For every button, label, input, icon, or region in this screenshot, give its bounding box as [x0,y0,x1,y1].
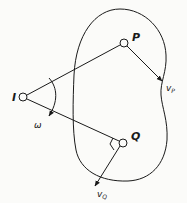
diagram-canvas: I P Q vP vQ ω [0,0,187,203]
label-q: Q [131,130,140,143]
label-omega: ω [34,120,42,130]
velocity-vq-arrow [95,146,120,186]
omega-arc-arrow [49,78,56,116]
point-p-circle [120,39,128,47]
rigid-body-outline [73,9,167,181]
label-vp: vP [166,83,175,94]
velocity-vp-arrow [127,46,162,81]
label-i: I [12,91,16,104]
label-vq: vQ [97,189,107,200]
point-i-circle [19,93,27,101]
right-angle-marker [110,138,114,150]
instant-center-diagram: I P Q vP vQ ω [0,0,187,203]
point-q-circle [119,139,127,147]
label-p: P [132,31,140,44]
